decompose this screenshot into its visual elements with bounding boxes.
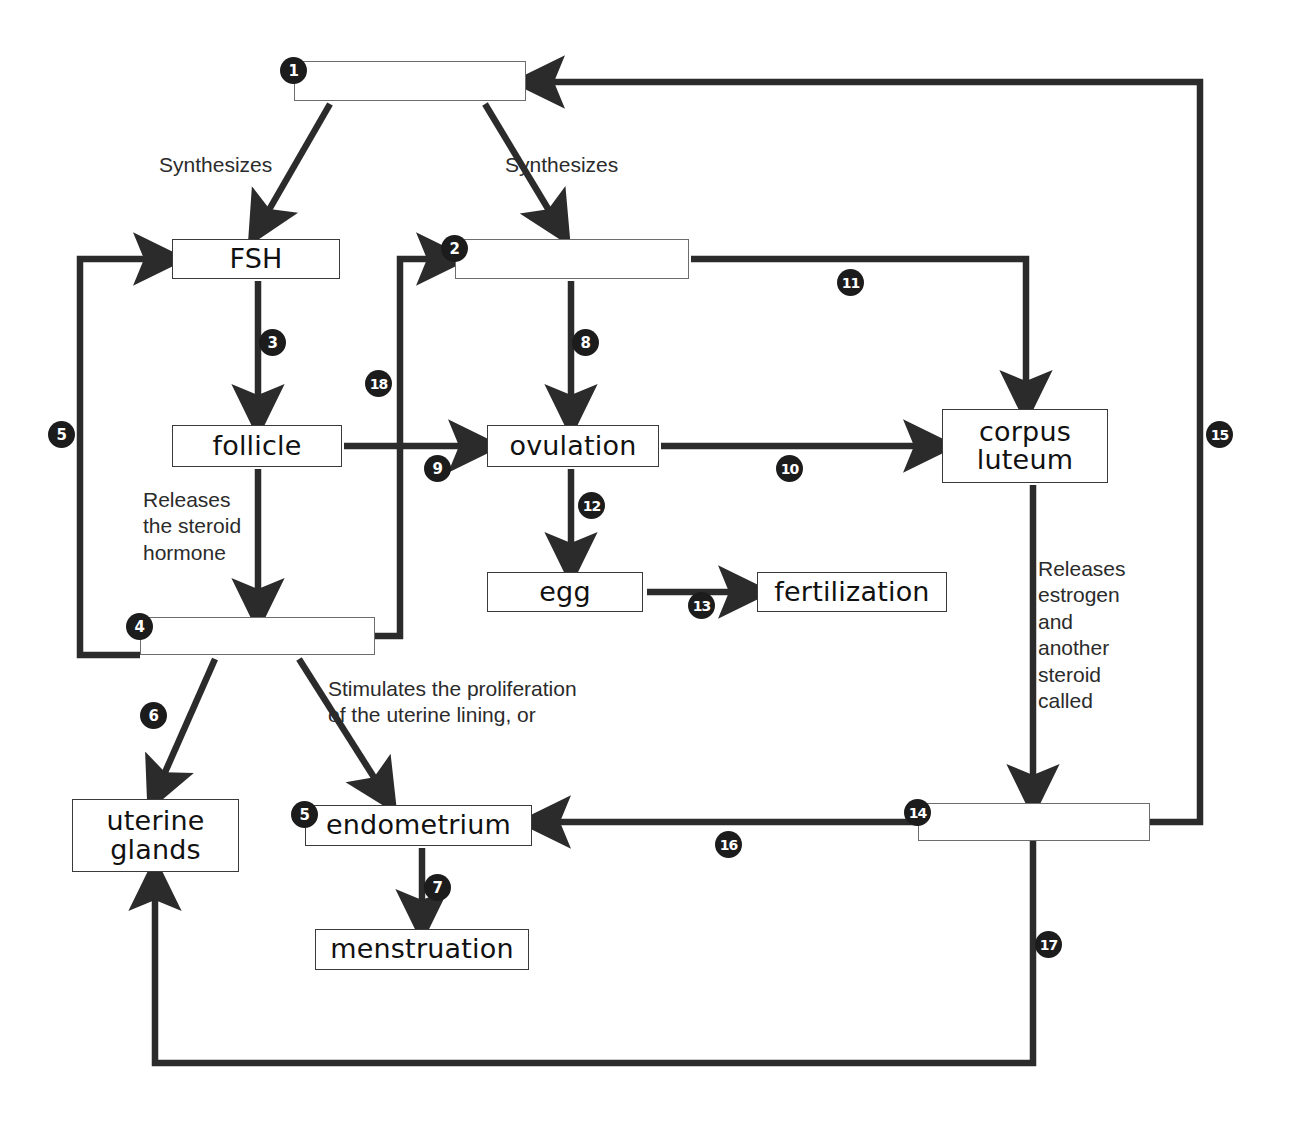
node-egg[interactable]: egg <box>487 572 643 612</box>
node-blank-1[interactable] <box>294 61 526 101</box>
badge-10: 10 <box>776 455 803 482</box>
note-synthesizes-left: Synthesizes <box>159 152 339 178</box>
node-uterine-glands[interactable]: uterine glands <box>72 799 239 872</box>
node-label: uterine glands <box>100 807 210 863</box>
connector-n14-uterine <box>155 841 1033 1063</box>
node-label: FSH <box>223 245 288 273</box>
node-fsh[interactable]: FSH <box>172 239 340 279</box>
node-label: menstruation <box>324 935 520 963</box>
flowchart-canvas: FSH follicle ovulation corpus luteum egg… <box>0 0 1293 1122</box>
node-blank-4[interactable] <box>140 617 375 655</box>
badge-9: 9 <box>424 455 451 482</box>
node-menstruation[interactable]: menstruation <box>315 929 529 970</box>
connector-n4-fsh <box>80 259 159 655</box>
badge-3: 3 <box>259 329 286 356</box>
node-follicle[interactable]: follicle <box>172 425 342 467</box>
node-corpus-luteum[interactable]: corpus luteum <box>942 409 1108 483</box>
badge-16: 16 <box>715 831 742 858</box>
badge-5-loop: 5 <box>48 421 75 448</box>
badge-7: 7 <box>424 874 451 901</box>
node-label: follicle <box>206 432 307 460</box>
connector-n4-uterine <box>159 659 215 786</box>
badge-18: 18 <box>365 370 392 397</box>
node-blank-2[interactable] <box>455 239 689 279</box>
node-label: fertilization <box>768 578 935 606</box>
badge-17: 17 <box>1035 931 1062 958</box>
node-endometrium[interactable]: endometrium <box>305 805 532 846</box>
note-releases-the-steroid-hormone: Releases the steroid hormone <box>143 487 318 566</box>
note-synthesizes-right: Synthesizes <box>505 152 685 178</box>
node-label: ovulation <box>503 432 642 460</box>
node-ovulation[interactable]: ovulation <box>487 425 659 467</box>
badge-8: 8 <box>572 329 599 356</box>
badge-13: 13 <box>688 592 715 619</box>
badge-2: 2 <box>441 235 468 262</box>
badge-12: 12 <box>578 492 605 519</box>
badge-1: 1 <box>280 57 307 84</box>
badge-11: 11 <box>837 269 864 296</box>
node-blank-14[interactable] <box>918 803 1150 841</box>
node-label: egg <box>533 578 597 606</box>
badge-15: 15 <box>1206 421 1233 448</box>
node-label: corpus luteum <box>971 418 1079 474</box>
note-releases-estrogen: Releases estrogen and another steroid ca… <box>1038 556 1188 715</box>
node-fertilization[interactable]: fertilization <box>757 572 947 612</box>
badge-14: 14 <box>904 799 931 826</box>
badge-4: 4 <box>126 613 153 640</box>
node-label: endometrium <box>320 811 517 839</box>
note-stimulates-proliferation: Stimulates the proliferation of the uter… <box>328 676 738 729</box>
badge-6: 6 <box>140 702 167 729</box>
badge-5-endometrium: 5 <box>291 801 318 828</box>
